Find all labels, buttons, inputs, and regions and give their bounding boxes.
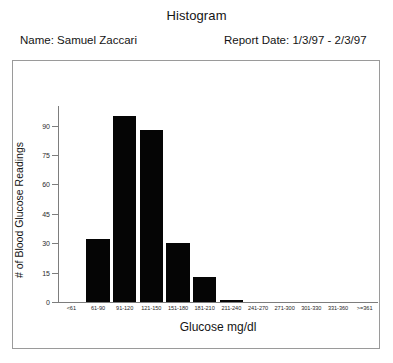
x-axis-tick-label: 211-240 xyxy=(218,305,245,311)
y-axis-tick-label-wrap: 0 xyxy=(14,302,50,303)
x-axis-tick-label: 331-360 xyxy=(325,305,352,311)
x-axis-tick-label: 301-330 xyxy=(298,305,325,311)
x-axis-tick-label: >=361 xyxy=(351,305,378,311)
x-axis-tick-label: 61-90 xyxy=(85,305,112,311)
histogram-bar xyxy=(166,243,189,302)
x-axis-line xyxy=(58,302,378,303)
x-axis-tick-label: 91-120 xyxy=(111,305,138,311)
histogram-bar xyxy=(140,130,163,302)
page-title: Histogram xyxy=(0,8,393,23)
x-axis-title: Glucose mg/dl xyxy=(58,320,378,334)
y-axis-title: # of Blood Glucose Readings xyxy=(13,125,25,295)
x-axis-tick-label: <61 xyxy=(58,305,85,311)
x-axis-tick-label: 181-210 xyxy=(191,305,218,311)
plot-area xyxy=(58,106,378,302)
patient-name-label: Name: Samuel Zaccari xyxy=(20,34,137,46)
histogram-bar xyxy=(220,300,243,302)
x-axis-tick-label: 151-180 xyxy=(165,305,192,311)
histogram-bar xyxy=(86,239,109,302)
y-axis-tick xyxy=(52,302,59,303)
y-axis-tick-label: 0 xyxy=(16,299,50,306)
histogram-bar xyxy=(193,277,216,302)
report-date-label: Report Date: 1/3/97 - 2/3/97 xyxy=(224,34,367,46)
x-axis-tick-label: 271-300 xyxy=(271,305,298,311)
x-axis-tick-label: 241-270 xyxy=(245,305,272,311)
x-axis-tick-label: 121-150 xyxy=(138,305,165,311)
histogram-bar xyxy=(113,116,136,302)
